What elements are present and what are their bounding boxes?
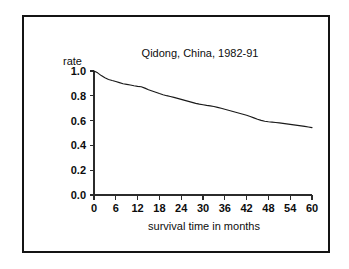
x-tick-label: 12 xyxy=(131,202,143,214)
x-tick-label: 0 xyxy=(91,202,97,214)
x-tick-label: 42 xyxy=(240,202,252,214)
y-tick-label: 0.0 xyxy=(71,189,86,201)
chart-frame: Qidong, China, 1982-91 rate 0.00.20.40.6… xyxy=(22,15,330,253)
x-tick-label: 24 xyxy=(175,202,188,214)
y-tick-label: 1.0 xyxy=(71,65,86,77)
survival-curve-chart: Qidong, China, 1982-91 rate 0.00.20.40.6… xyxy=(24,17,328,251)
x-tick-label: 6 xyxy=(113,202,119,214)
x-tick-label: 18 xyxy=(153,202,165,214)
y-tick-label: 0.4 xyxy=(71,139,87,151)
chart-title: Qidong, China, 1982-91 xyxy=(142,47,259,59)
x-axis-ticks: 06121824303642485460 xyxy=(91,195,318,214)
y-tick-label: 0.8 xyxy=(71,90,86,102)
y-axis-ticks: 0.00.20.40.60.81.0 xyxy=(71,65,94,201)
x-axis-title: survival time in months xyxy=(148,220,260,232)
y-tick-label: 0.2 xyxy=(71,164,86,176)
data-series-line xyxy=(94,71,312,128)
x-tick-label: 36 xyxy=(219,202,231,214)
y-tick-label: 0.6 xyxy=(71,115,86,127)
x-tick-label: 60 xyxy=(306,202,318,214)
x-tick-label: 54 xyxy=(284,202,297,214)
figure-root: Qidong, China, 1982-91 rate 0.00.20.40.6… xyxy=(0,0,349,269)
x-tick-label: 48 xyxy=(262,202,274,214)
x-tick-label: 30 xyxy=(197,202,209,214)
